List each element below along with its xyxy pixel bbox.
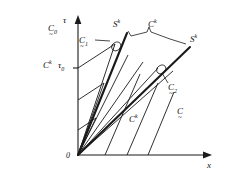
char-label-bottom: Ck	[129, 113, 138, 124]
region-c0-accent: ~	[48, 31, 54, 38]
loop-markers	[112, 42, 166, 74]
region-c1-accent: ~	[79, 43, 85, 50]
char-left-sup: k	[49, 59, 52, 65]
region-label-c1: C~1	[79, 36, 88, 47]
shock-line-left	[78, 33, 127, 155]
shock-left-sup: k	[118, 18, 121, 24]
shock-right-sup: k	[195, 33, 198, 39]
origin-label: 0	[66, 152, 70, 160]
char-label-left: Ck	[43, 59, 52, 70]
shock-label-left: Sk	[113, 18, 120, 29]
shock-label-right: Sk	[190, 33, 197, 44]
char-label-top: Ck	[148, 18, 157, 29]
char-bottom-sup: k	[135, 113, 138, 119]
leader-c1	[95, 40, 110, 41]
char-top-sup: k	[154, 18, 157, 24]
loop-marker-c2	[157, 65, 166, 74]
brace-ck	[128, 27, 186, 44]
figure-canvas: τ x 0 τ0 C~0 C~1 C~2 C~ Ck Ck Ck Sk Sk	[0, 0, 227, 177]
region-c0-sub: 0	[54, 29, 57, 35]
region-c-accent: ~	[177, 114, 183, 121]
region-c-glyph: C~	[177, 107, 183, 116]
region-c2-glyph: C~	[168, 83, 174, 92]
region-c0-glyph: C~	[48, 24, 54, 33]
region-c2-sub: 2	[174, 88, 177, 94]
lower-char-3	[148, 92, 174, 155]
region-label-c: C~	[177, 107, 183, 116]
region-c1-sub: 1	[85, 41, 88, 47]
region-c2-accent: ~	[168, 90, 174, 97]
tick-label-tau0: τ0	[58, 61, 64, 72]
tau-axis-arrowhead	[75, 15, 82, 24]
centered-fan-rays	[78, 44, 173, 155]
region-label-c0: C~0	[48, 24, 57, 35]
axis-label-tau: τ	[63, 16, 66, 25]
region-label-c2: C~2	[168, 83, 177, 94]
tick-label-sub: 0	[61, 66, 64, 72]
leader-lines	[95, 40, 168, 83]
axis-label-x: x	[207, 161, 211, 170]
region-c1-glyph: C~	[79, 36, 85, 45]
brace-path	[128, 27, 186, 44]
x-axis-arrowhead	[203, 152, 212, 159]
